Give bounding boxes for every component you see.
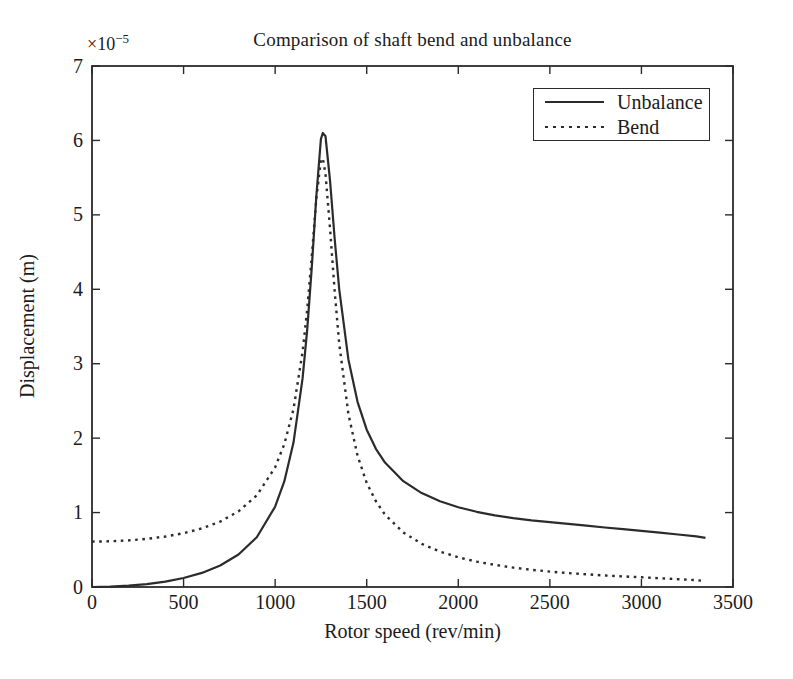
legend-label-unbalance: Unbalance bbox=[617, 92, 703, 112]
solid-line-sample-icon bbox=[545, 101, 604, 103]
x-tick-label: 2500 bbox=[530, 591, 570, 613]
y-tick-label: 0 bbox=[73, 576, 83, 598]
series-line-bend bbox=[92, 158, 706, 581]
y-tick-label: 1 bbox=[73, 501, 83, 523]
x-tick-label: 3500 bbox=[713, 591, 753, 613]
legend-item-bend: Bend bbox=[534, 115, 709, 139]
y-axis-multiplier-exponent: −5 bbox=[115, 31, 129, 46]
y-tick-label: 5 bbox=[73, 203, 83, 225]
y-tick-label: 7 bbox=[73, 55, 83, 77]
legend-label-bend: Bend bbox=[617, 117, 659, 137]
y-axis-multiplier-base: ×10 bbox=[87, 34, 115, 54]
x-tick-label: 1500 bbox=[347, 591, 387, 613]
x-tick-label: 2000 bbox=[438, 591, 478, 613]
figure-container: 050010001500200025003000350001234567 Com… bbox=[0, 0, 793, 679]
y-axis-label: Displacement (m) bbox=[16, 254, 39, 398]
x-tick-label: 3000 bbox=[621, 591, 661, 613]
x-tick-label: 500 bbox=[169, 591, 199, 613]
y-tick-label: 4 bbox=[73, 278, 83, 300]
plot-frame bbox=[92, 66, 733, 587]
x-tick-label: 1000 bbox=[255, 591, 295, 613]
y-tick-label: 6 bbox=[73, 129, 83, 151]
x-axis-label: Rotor speed (rev/min) bbox=[92, 620, 733, 643]
dotted-line-sample-icon bbox=[545, 126, 604, 129]
y-tick-label: 2 bbox=[73, 427, 83, 449]
y-tick-label: 3 bbox=[73, 352, 83, 374]
chart-title: Comparison of shaft bend and unbalance bbox=[92, 29, 733, 51]
series-line-unbalance bbox=[92, 133, 706, 587]
legend-box: Unbalance Bend bbox=[533, 88, 710, 141]
x-tick-label: 0 bbox=[87, 591, 97, 613]
legend-item-unbalance: Unbalance bbox=[534, 90, 709, 114]
y-axis-multiplier: ×10−5 bbox=[87, 31, 129, 55]
